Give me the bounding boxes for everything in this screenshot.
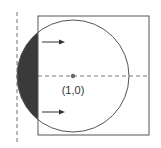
arrow-right-icon <box>42 110 65 115</box>
diagram-canvas <box>0 0 161 148</box>
center-dot <box>71 74 75 78</box>
arrow-right-icon <box>42 40 65 45</box>
center-label: (1,0) <box>62 84 85 96</box>
